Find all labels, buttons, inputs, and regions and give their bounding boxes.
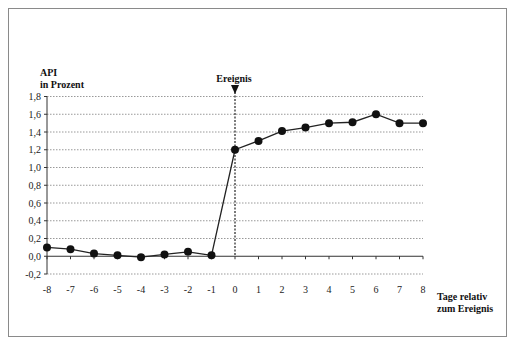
y-tick-label: 1,6 — [29, 109, 42, 120]
y-tick-label: 1,0 — [29, 162, 42, 173]
event-annotation: Ereignis — [216, 73, 251, 84]
data-point — [67, 245, 75, 253]
x-tick-label: -4 — [137, 284, 145, 295]
data-point — [184, 248, 192, 256]
data-point — [137, 253, 145, 261]
x-axis-label-line1: Tage relativ — [437, 291, 487, 302]
y-tick-label: 0,6 — [29, 198, 42, 209]
data-point — [114, 251, 122, 259]
x-tick-label: 2 — [280, 284, 285, 295]
y-tick-label: 0,2 — [29, 233, 42, 244]
data-point — [255, 137, 263, 145]
x-axis-label-line2: zum Ereignis — [437, 303, 493, 314]
x-tick-label: 7 — [397, 284, 402, 295]
x-tick-label: -2 — [184, 284, 192, 295]
y-tick-label: -0,2 — [25, 269, 41, 280]
data-point — [90, 250, 98, 258]
data-point — [278, 127, 286, 135]
x-tick-label: 6 — [374, 284, 379, 295]
data-point — [419, 119, 427, 127]
x-tick-label: -7 — [66, 284, 74, 295]
x-tick-label: -3 — [160, 284, 168, 295]
y-axis-label-line1: API — [40, 67, 57, 78]
y-tick-label: 0,8 — [29, 180, 42, 191]
data-point — [349, 118, 357, 126]
y-tick-label: 1,4 — [29, 127, 42, 138]
data-point — [325, 119, 333, 127]
y-axis-label-line2: in Prozent — [40, 79, 85, 90]
data-point — [231, 146, 239, 154]
y-tick-label: 1,2 — [29, 144, 42, 155]
data-point — [208, 251, 216, 259]
y-tick-label: 0,0 — [29, 251, 42, 262]
x-tick-label: -5 — [113, 284, 121, 295]
x-tick-label: 1 — [256, 284, 261, 295]
x-tick-label: -6 — [90, 284, 98, 295]
data-point — [302, 124, 310, 132]
y-tick-label: 1,8 — [29, 91, 42, 102]
data-point — [43, 243, 51, 251]
event-marker-icon — [231, 85, 239, 94]
x-tick-label: 0 — [233, 284, 238, 295]
data-point — [161, 250, 169, 258]
x-tick-label: -1 — [207, 284, 215, 295]
x-tick-label: 8 — [421, 284, 426, 295]
x-tick-label: 4 — [327, 284, 332, 295]
data-point — [372, 110, 380, 118]
x-tick-label: -8 — [43, 284, 51, 295]
data-point — [396, 119, 404, 127]
axes — [44, 85, 423, 274]
line-chart: API in Prozent Tage relativ zum Ereignis… — [0, 0, 518, 352]
x-tick-label: 5 — [350, 284, 355, 295]
y-tick-label: 0,4 — [29, 215, 42, 226]
x-tick-label: 3 — [303, 284, 308, 295]
